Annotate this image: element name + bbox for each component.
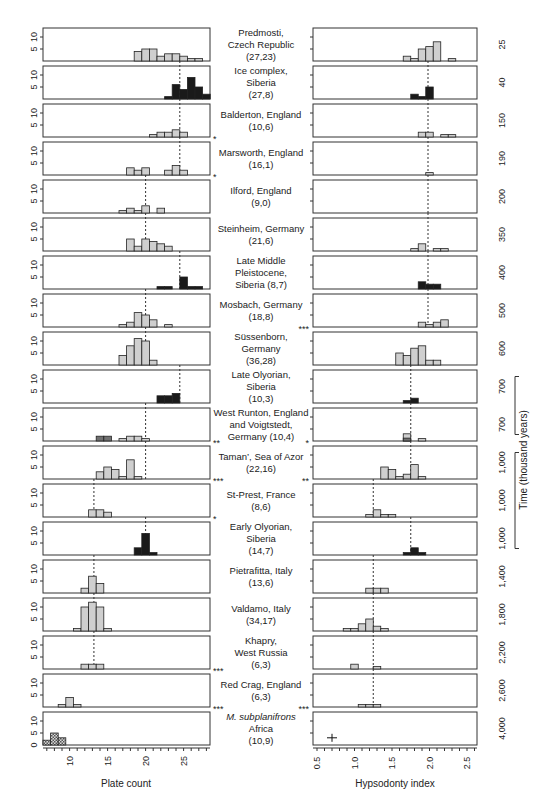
hypsodonty-panel bbox=[313, 218, 477, 251]
plate-bar bbox=[96, 436, 104, 441]
plate-bar bbox=[157, 396, 165, 403]
plate-bar bbox=[165, 287, 173, 289]
x-tick-label: 10 bbox=[65, 756, 75, 766]
plate-bar bbox=[127, 346, 135, 365]
hypsodonty-significance-marker: *** bbox=[298, 324, 309, 334]
site-label: Late Olyorian, bbox=[231, 369, 290, 380]
plate-bar bbox=[172, 393, 180, 403]
plate-bar bbox=[165, 396, 173, 403]
plate-bar bbox=[73, 705, 81, 707]
hypsodonty-panel bbox=[313, 484, 477, 517]
site-label: (10,9) bbox=[249, 735, 274, 746]
y-tick-label: 10 bbox=[29, 298, 39, 308]
hypsodonty-panel bbox=[313, 66, 477, 99]
hypsodonty-bar bbox=[381, 515, 389, 517]
site-label: Africa bbox=[249, 723, 274, 734]
site-label: Early Olyorian, bbox=[230, 521, 292, 532]
plate-bar bbox=[134, 548, 142, 555]
x-tick-label: 25 bbox=[179, 756, 189, 766]
x-tick-label: 0.5 bbox=[312, 757, 322, 770]
plate-bar bbox=[127, 460, 135, 479]
hypsodonty-bar bbox=[418, 477, 426, 479]
plate-bar bbox=[134, 170, 142, 175]
hypsodonty-bar bbox=[411, 249, 419, 251]
hypsodonty-significance-marker: ** bbox=[302, 476, 310, 486]
plate-bar bbox=[89, 576, 97, 593]
site-label: (8,6) bbox=[251, 501, 271, 512]
site-label: (22,16) bbox=[246, 463, 276, 474]
y-tick-label: 5 bbox=[29, 84, 39, 89]
plate-bar bbox=[104, 629, 112, 631]
site-label: Ilford, England bbox=[230, 185, 291, 196]
time-value: 150 bbox=[497, 113, 507, 128]
time-value: 400 bbox=[497, 265, 507, 280]
y-tick-label: 10 bbox=[29, 488, 39, 498]
x-tick-label: 2.5 bbox=[462, 757, 472, 770]
plate-bar bbox=[104, 467, 112, 479]
site-row: 510*St-Prest, France(8,6)1,000 bbox=[29, 479, 507, 524]
hypsodonty-bar bbox=[366, 515, 374, 517]
hypsodonty-bar bbox=[433, 360, 441, 365]
site-label: Khapry, bbox=[245, 635, 277, 646]
plate-bar bbox=[142, 49, 150, 61]
plate-bar bbox=[157, 132, 165, 137]
time-value: 1,000 bbox=[497, 527, 507, 550]
plate-bar bbox=[127, 322, 135, 327]
hypsodonty-bar bbox=[411, 94, 419, 99]
hypsodonty-bar bbox=[343, 629, 351, 631]
site-label: Siberia (8,7) bbox=[235, 279, 287, 290]
plate-bar bbox=[89, 602, 97, 631]
hypsodonty-panel bbox=[313, 180, 477, 213]
plate-bar bbox=[157, 208, 165, 213]
time-value: 200 bbox=[497, 189, 507, 204]
plate-bar bbox=[134, 339, 142, 365]
hypsodonty-bar bbox=[426, 47, 434, 61]
plate-bar bbox=[127, 436, 135, 441]
y-tick-label: 10 bbox=[29, 336, 39, 346]
hypsodonty-bar bbox=[441, 320, 449, 327]
hypsodonty-bar bbox=[366, 705, 374, 707]
site-label: (36,28) bbox=[246, 355, 276, 366]
plate-bar bbox=[89, 510, 97, 517]
site-label: Predmosti, bbox=[238, 27, 283, 38]
histogram-panels: 510Predmosti,Czech Republic(27,23)25510I… bbox=[29, 27, 507, 748]
site-label: Germany bbox=[241, 343, 280, 354]
hypsodonty-bar bbox=[433, 249, 441, 251]
plate-bar bbox=[180, 89, 188, 99]
hypsodonty-panel bbox=[313, 294, 477, 327]
time-value: 1,800 bbox=[497, 603, 507, 626]
hypsodonty-bar bbox=[426, 325, 434, 327]
site-label: (10,6) bbox=[249, 121, 274, 132]
x-tick-label: 2.0 bbox=[425, 757, 435, 770]
y-tick-label: 5 bbox=[29, 198, 39, 203]
hypsodonty-bar bbox=[366, 588, 374, 593]
y-tick-label: 10 bbox=[29, 412, 39, 422]
x-tick-label: 1.0 bbox=[350, 757, 360, 770]
plate-bar bbox=[104, 512, 112, 517]
time-value: 600 bbox=[497, 341, 507, 356]
hypsodonty-panel bbox=[313, 712, 477, 745]
plate-bar bbox=[142, 341, 150, 365]
hypsodonty-bar bbox=[426, 284, 434, 289]
plate-bar bbox=[119, 355, 127, 365]
plate-bar bbox=[66, 697, 74, 707]
plate-significance-marker: *** bbox=[213, 704, 224, 714]
y-tick-label: 10 bbox=[29, 32, 39, 42]
hypsodonty-bar bbox=[373, 588, 381, 593]
y-tick-label: 10 bbox=[29, 184, 39, 194]
plate-bar bbox=[96, 607, 104, 631]
y-tick-label: 5 bbox=[29, 464, 39, 469]
x-tick-label: 1.5 bbox=[387, 757, 397, 770]
plate-bar bbox=[81, 664, 89, 669]
y-tick-label: 10 bbox=[29, 450, 39, 460]
plate-bar bbox=[96, 664, 104, 669]
plate-bar bbox=[165, 132, 173, 137]
plate-bar bbox=[134, 51, 142, 61]
hypsodonty-bar bbox=[396, 353, 404, 365]
site-label: (14,7) bbox=[249, 545, 274, 556]
plate-count-panel bbox=[43, 712, 210, 745]
site-label: Süssenborn, bbox=[234, 331, 287, 342]
plate-bar bbox=[119, 477, 127, 479]
plate-bar bbox=[58, 738, 66, 745]
hypsodonty-bar bbox=[418, 553, 426, 555]
